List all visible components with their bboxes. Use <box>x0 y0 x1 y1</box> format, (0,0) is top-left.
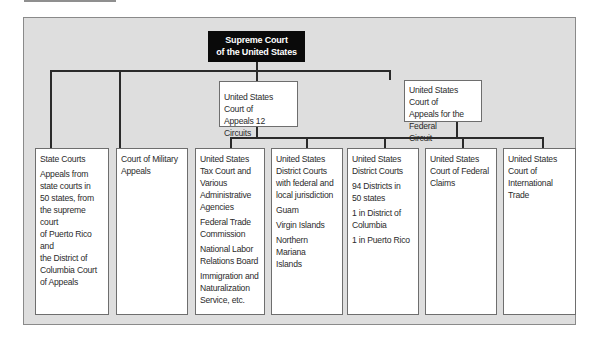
court-detail-line: 50 states, from <box>40 192 104 204</box>
court-detail-line: 94 Districts in <box>352 180 414 192</box>
court-title-line: Court of Military <box>121 153 183 165</box>
fedcircuit-line: Appeals for the Federal <box>409 108 477 132</box>
court-detail: Immigration and Naturalization Service, … <box>200 270 260 306</box>
court-detail-line: 50 states <box>352 192 414 204</box>
court-detail-line: Commission <box>200 228 260 240</box>
court-detail-line: Virgin Islands <box>276 219 338 231</box>
military-appeals-box: Court of Military Appeals <box>116 148 188 315</box>
court-of-appeals-circuits-box: United States Court of Appeals 12 Circui… <box>219 81 298 127</box>
court-detail-line: Columbia <box>352 219 414 231</box>
court-title-line: Claims <box>430 177 492 189</box>
court-detail-line: state courts in <box>40 180 104 192</box>
court-detail: 94 Districts in 50 states <box>352 180 414 204</box>
connector-district-terr-down <box>306 137 308 148</box>
court-title-line: State Courts <box>40 153 104 165</box>
court-detail-line: 1 in Puerto Rico <box>352 234 414 246</box>
court-title-line: Court of <box>508 165 571 177</box>
fedcircuit-line: Circuit <box>409 132 477 144</box>
international-trade-box: United States Court of International Tra… <box>503 148 576 315</box>
connector-fedcircuit-down <box>389 70 391 80</box>
connector-military-down <box>119 70 121 148</box>
connector-top-bar <box>50 70 390 72</box>
court-title-line: United States <box>200 153 260 165</box>
court-detail: Guam <box>276 204 338 216</box>
court-detail: Appeals from state courts in 50 states, … <box>40 168 104 288</box>
court-title-line: United States <box>430 153 492 165</box>
court-detail: Northern Mariana Islands <box>276 234 338 270</box>
court-detail-line: Northern Mariana <box>276 234 338 258</box>
fedcircuit-line: United States Court of <box>409 84 477 108</box>
header-rule <box>24 0 116 2</box>
court-detail-line: of Appeals <box>40 276 104 288</box>
connector-district-down <box>384 137 386 148</box>
federal-circuit-box: United States Court of Appeals for the F… <box>404 80 482 122</box>
court-title-line: Tax Court and <box>200 165 260 177</box>
court-title-line: local jurisdiction <box>276 189 338 201</box>
circuits-line: Appeals 12 Circuits <box>224 115 293 139</box>
court-title-line: District Courts <box>352 165 414 177</box>
court-title-line: Various <box>200 177 260 189</box>
court-detail: Virgin Islands <box>276 219 338 231</box>
supreme-court-line2: of the United States <box>208 46 305 58</box>
tax-court-box: United States Tax Court and Various Admi… <box>195 148 265 315</box>
court-detail-line: Immigration and <box>200 270 260 282</box>
circuits-line: United States Court of <box>224 91 293 115</box>
court-detail: 1 in District of Columbia <box>352 207 414 231</box>
court-detail-line: Islands <box>276 258 338 270</box>
court-title-line: Appeals <box>121 165 183 177</box>
state-courts-box: State Courts Appeals from state courts i… <box>35 148 109 315</box>
court-detail-line: Guam <box>276 204 338 216</box>
court-title-line: United States <box>276 153 338 165</box>
court-title-line: with federal and <box>276 177 338 189</box>
supreme-court-line1: Supreme Court <box>208 34 305 46</box>
supreme-court-box: Supreme Court of the United States <box>208 31 305 62</box>
court-detail-line: Appeals from <box>40 168 104 180</box>
court-detail-line: the supreme court <box>40 204 104 228</box>
court-detail-line: Service, etc. <box>200 294 260 306</box>
court-detail-line: Relations Board <box>200 255 260 267</box>
court-detail-line: the District of <box>40 252 104 264</box>
connector-trade-down <box>542 137 544 148</box>
court-title-line: Agencies <box>200 201 260 213</box>
court-detail-line: of Puerto Rico and <box>40 228 104 252</box>
court-detail-line: National Labor <box>200 243 260 255</box>
court-title-line: International Trade <box>508 177 571 201</box>
court-detail-line: Columbia Court <box>40 264 104 276</box>
court-detail-line: Federal Trade <box>200 216 260 228</box>
district-courts-box: United States District Courts 94 Distric… <box>347 148 419 315</box>
court-title-line: United States <box>508 153 571 165</box>
connector-state-down <box>50 70 52 148</box>
court-title-line: District Courts <box>276 165 338 177</box>
court-detail-line: Naturalization <box>200 282 260 294</box>
connector-circuits-down <box>256 70 258 81</box>
court-detail: Federal Trade Commission <box>200 216 260 240</box>
court-title-line: Administrative <box>200 189 260 201</box>
federal-claims-box: United States Court of Federal Claims <box>425 148 497 315</box>
court-title-line: Court of Federal <box>430 165 492 177</box>
court-title-line: United States <box>352 153 414 165</box>
court-detail-line: 1 in District of <box>352 207 414 219</box>
district-courts-territories-box: United States District Courts with feder… <box>271 148 343 315</box>
court-detail: 1 in Puerto Rico <box>352 234 414 246</box>
court-detail: National Labor Relations Board <box>200 243 260 267</box>
